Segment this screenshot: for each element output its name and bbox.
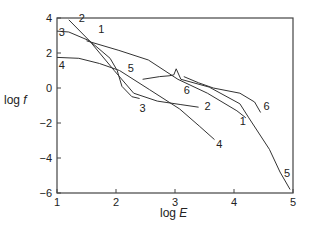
y-axis-label-log: log xyxy=(4,93,23,107)
curve-label-5-start: 5 xyxy=(128,62,134,74)
x-tick-label: 1 xyxy=(54,196,60,208)
curve-label-2-end: 2 xyxy=(204,100,210,112)
curve-labels: 112233445566 xyxy=(59,12,291,179)
y-tick-label: 4 xyxy=(46,12,52,24)
curve-label-4-start: 4 xyxy=(59,59,65,71)
curve-label-6-start: 6 xyxy=(184,84,190,96)
data-curves xyxy=(57,20,290,190)
curve-label-3-start: 3 xyxy=(59,26,65,38)
x-tick-label: 5 xyxy=(290,196,296,208)
x-axis-label-log: log xyxy=(160,206,179,220)
x-axis-label: log E xyxy=(160,206,188,220)
y-tick-label: −6 xyxy=(39,187,52,199)
x-tick-label: 4 xyxy=(231,196,237,208)
curve-label-4-end: 4 xyxy=(216,138,222,150)
curve-4 xyxy=(57,57,215,139)
axis-ticks: 12345−6−4−2024 xyxy=(39,12,296,208)
curve-1 xyxy=(87,41,246,118)
y-tick-label: 2 xyxy=(46,47,52,59)
chart: 12345−6−4−2024 112233445566 log E log f xyxy=(0,0,309,230)
curve-label-3-end: 3 xyxy=(139,102,145,114)
y-axis-label-var: f xyxy=(23,93,28,107)
curve-5 xyxy=(143,69,291,190)
curve-label-5-end: 5 xyxy=(284,167,290,179)
y-tick-label: −4 xyxy=(39,152,52,164)
curve-label-6-end: 6 xyxy=(263,100,269,112)
y-axis-label: log f xyxy=(4,93,28,107)
x-tick-label: 2 xyxy=(113,196,119,208)
curve-label-2-start: 2 xyxy=(79,12,85,24)
y-tick-label: −2 xyxy=(39,117,52,129)
curve-label-1-end: 1 xyxy=(240,115,246,127)
y-tick-label: 0 xyxy=(46,82,52,94)
x-axis-label-var: E xyxy=(179,206,188,220)
curve-label-1-start: 1 xyxy=(98,23,104,35)
